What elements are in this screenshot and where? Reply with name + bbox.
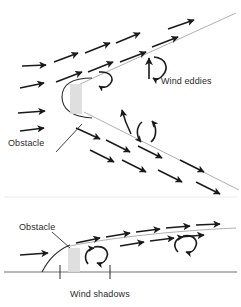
flow-arrow	[106, 140, 130, 152]
obstacle-leader-line-side	[52, 232, 70, 248]
flow-arrow	[20, 253, 48, 255]
flow-arrow	[56, 72, 82, 82]
plan-view-panel	[18, 13, 239, 194]
flow-arrow	[76, 128, 100, 139]
flow-arrow	[136, 229, 160, 232]
eddy-curl-right	[183, 236, 196, 253]
flow-arrow	[180, 160, 204, 172]
flow-arrow	[85, 43, 110, 53]
wind-shadow-patch-side	[68, 248, 80, 272]
flow-arrow	[196, 224, 220, 225]
eddy-curl-left	[175, 237, 183, 252]
flow-arrow	[196, 182, 220, 194]
flow-arrow	[54, 53, 78, 62]
wind-flow-diagram: Wind eddies Obstacle Obstacle Wind shado…	[0, 0, 241, 307]
eddy-curl-right	[94, 247, 107, 264]
eddy-curl-left	[86, 248, 94, 264]
flow-arrow	[120, 242, 144, 246]
obstacle-shape-side	[42, 245, 70, 272]
lower-flow-arrows-plan	[76, 128, 220, 194]
label-wind-eddies: Wind eddies	[161, 77, 212, 86]
flow-arrow	[18, 111, 45, 113]
diagram-canvas	[0, 0, 241, 307]
wake-boundary-upper	[80, 13, 236, 84]
upper-flow-arrows-side	[76, 224, 220, 246]
flow-arrow	[120, 52, 146, 62]
label-wind-shadows: Wind shadows	[70, 290, 130, 299]
flow-arrow	[158, 170, 182, 182]
wake-boundary-side	[70, 228, 236, 246]
wake-boundary-lower	[84, 112, 239, 190]
label-obstacle-plan: Obstacle	[8, 139, 44, 148]
flow-arrow	[22, 65, 46, 66]
recirculation-arrow-plan	[122, 110, 131, 134]
upper-flow-arrows-plan	[54, 20, 194, 82]
eddy-symbol-near-obstacle	[86, 247, 108, 264]
label-obstacle-side: Obstacle	[19, 223, 55, 232]
wake-boundary-lines	[80, 13, 239, 190]
flow-arrow	[122, 160, 146, 172]
obstacle-leader-line-plan	[56, 124, 82, 152]
flow-arrow	[20, 128, 44, 131]
flow-arrow	[90, 150, 114, 162]
flow-arrow	[150, 238, 174, 241]
eddy-symbol-downwind	[175, 236, 197, 253]
flow-arrow	[116, 33, 140, 43]
flow-arrow	[168, 20, 194, 29]
eddy-symbol-pair-plan	[137, 121, 155, 142]
incoming-flow-arrows-plan	[18, 65, 46, 131]
flow-arrow	[20, 83, 44, 88]
flow-arrow	[106, 233, 130, 237]
flow-arrow	[138, 146, 162, 158]
wind-shadow-patch-plan	[70, 84, 82, 114]
side-view-panel	[4, 224, 237, 279]
flow-arrow	[166, 226, 190, 228]
eddy-curl-right	[151, 121, 156, 142]
